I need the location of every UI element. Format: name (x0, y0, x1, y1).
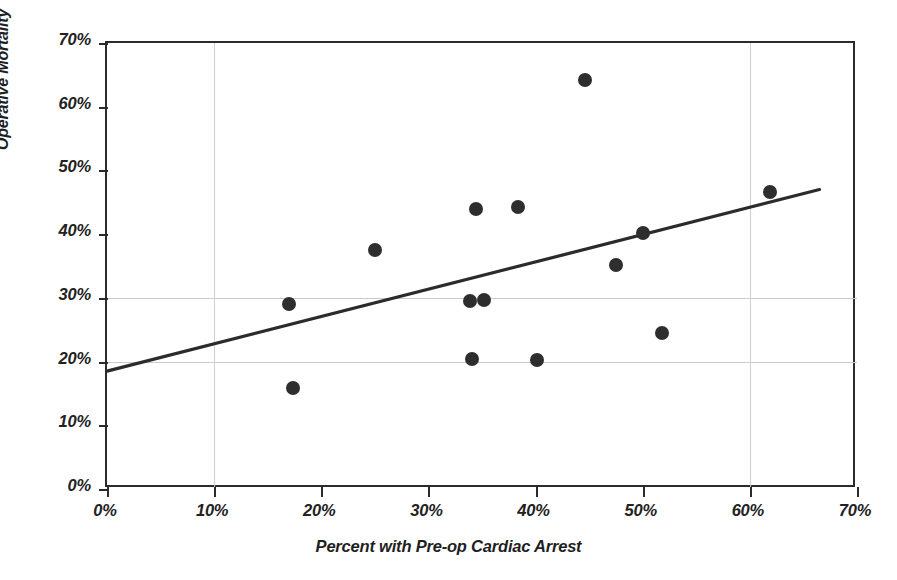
x-tick-mark (536, 487, 538, 497)
x-tick-mark (321, 487, 323, 497)
y-tick-mark (99, 43, 108, 45)
y-tick-mark (99, 170, 108, 172)
scatter-chart-figure: 0%10%20%30%40%50%60%70% 0%10%20%30%40%50… (0, 0, 897, 580)
data-point (511, 200, 525, 214)
y-tick-label: 70% (3, 30, 91, 49)
x-tick-label: 30% (386, 501, 466, 520)
data-point (609, 258, 623, 272)
y-tick-label: 10% (3, 412, 91, 431)
x-tick-mark (428, 487, 430, 497)
gridline-horizontal (107, 362, 857, 363)
gridline-vertical (214, 43, 215, 489)
data-point (530, 353, 544, 367)
y-axis-title: Operative Mortality (0, 0, 12, 150)
x-tick-label: 60% (708, 501, 788, 520)
y-tick-mark (99, 362, 108, 364)
data-point (655, 326, 669, 340)
y-tick-label: 60% (3, 94, 91, 113)
x-tick-label: 70% (815, 501, 895, 520)
y-tick-mark (99, 425, 108, 427)
y-tick-mark (99, 298, 108, 300)
data-point (469, 202, 483, 216)
data-point (465, 352, 479, 366)
x-axis-title: Percent with Pre-op Cardiac Arrest (0, 537, 897, 556)
data-point (368, 243, 382, 257)
x-tick-label: 50% (601, 501, 681, 520)
x-tick-label: 10% (172, 501, 252, 520)
x-tick-label: 0% (65, 501, 145, 520)
y-tick-mark (99, 107, 108, 109)
x-tick-mark (750, 487, 752, 497)
y-tick-label: 30% (3, 285, 91, 304)
data-point (463, 294, 477, 308)
x-tick-mark (214, 487, 216, 497)
x-tick-label: 40% (494, 501, 574, 520)
data-point (636, 226, 650, 240)
x-tick-label: 20% (279, 501, 359, 520)
data-point (578, 73, 592, 87)
data-point (286, 381, 300, 395)
data-point (282, 297, 296, 311)
gridline-vertical (750, 43, 751, 489)
y-tick-label: 40% (3, 221, 91, 240)
trendline (107, 43, 857, 489)
y-tick-label: 20% (3, 349, 91, 368)
data-point (477, 293, 491, 307)
x-tick-mark (643, 487, 645, 497)
plot-area (105, 41, 855, 487)
data-point (763, 185, 777, 199)
y-tick-mark (99, 234, 108, 236)
x-tick-mark (107, 487, 109, 497)
x-tick-mark (857, 487, 859, 497)
y-tick-label: 50% (3, 157, 91, 176)
y-tick-label: 0% (3, 476, 91, 495)
